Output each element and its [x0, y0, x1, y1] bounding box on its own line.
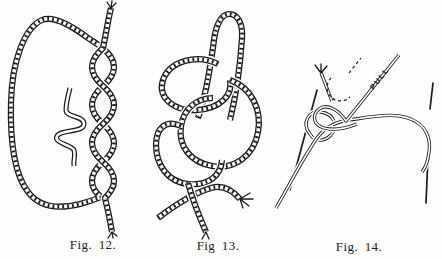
- figure-12-caption: Fig. 12.: [58, 237, 128, 253]
- figure-12-drawing: [11, 1, 117, 238]
- fig13-right-loop: [181, 80, 259, 167]
- book-page: Fig. 12. Fig 13. Fig. 14. PULL: [0, 0, 442, 259]
- figure-13-drawing: [156, 14, 259, 239]
- fig12-knot-detail-inset: [56, 88, 84, 166]
- figure-14-drawing: [276, 55, 433, 208]
- fig14-slack-cord: [276, 115, 430, 208]
- figure-14-caption: Fig. 14.: [324, 239, 394, 255]
- fig14-stub-frays: [315, 64, 327, 73]
- fig13-rope-end-frays: [202, 193, 253, 239]
- knot-illustrations: [0, 0, 442, 259]
- figure-13-caption: Fig 13.: [183, 238, 253, 254]
